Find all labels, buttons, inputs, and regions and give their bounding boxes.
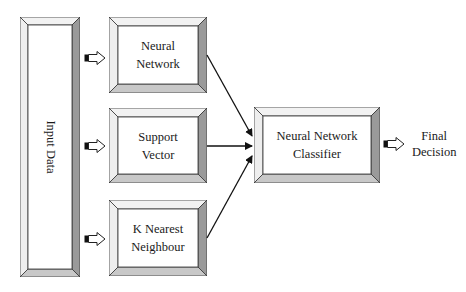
model-label: K Nearest Neighbour: [109, 200, 207, 276]
model-box-k-nearest-neighbour: K Nearest Neighbour: [109, 200, 207, 276]
classifier-box: Neural Network Classifier: [254, 107, 380, 183]
model-box-neural-network: Neural Network: [109, 17, 207, 93]
input-data-label: Input Data: [43, 120, 58, 173]
block-arrow-icon: [84, 139, 106, 153]
input-data-box: Input Data: [20, 17, 80, 277]
model-label: Support Vector: [109, 108, 207, 183]
block-arrow-icon: [383, 137, 405, 151]
arrow-nn-to-classifier: [207, 55, 252, 136]
block-arrow-icon: [84, 232, 106, 246]
arrow-knn-to-classifier: [207, 156, 252, 238]
model-label: Neural Network: [109, 17, 207, 93]
classifier-label: Neural Network Classifier: [254, 107, 380, 183]
final-decision-label: Final Decision: [412, 128, 456, 160]
model-box-support-vector: Support Vector: [109, 108, 207, 183]
block-arrow-icon: [84, 51, 106, 65]
